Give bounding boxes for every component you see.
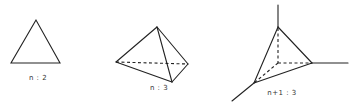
hidden-edge-left-right <box>116 62 188 64</box>
figure-tetrahedron: n : 3 <box>116 27 188 92</box>
axis-diagonal <box>232 83 254 101</box>
edge-left-right <box>254 63 312 83</box>
diagram-canvas: n : 2 n : 3 n+1 : 3 <box>0 0 359 108</box>
figure-cone: n+1 : 3 <box>232 5 348 101</box>
edge-left-front <box>116 62 172 82</box>
label-tetrahedron: n : 3 <box>150 84 168 92</box>
label-cone: n+1 : 3 <box>267 89 297 97</box>
edge-apex-left <box>254 27 278 83</box>
triangle-edges <box>11 20 60 63</box>
edge-apex-left <box>116 27 157 62</box>
hidden-edge-origin-left <box>254 63 278 83</box>
figure-triangle: n : 2 <box>11 20 60 82</box>
label-triangle: n : 2 <box>29 74 47 82</box>
edge-apex-right <box>278 27 312 63</box>
edge-right-front <box>172 64 188 82</box>
